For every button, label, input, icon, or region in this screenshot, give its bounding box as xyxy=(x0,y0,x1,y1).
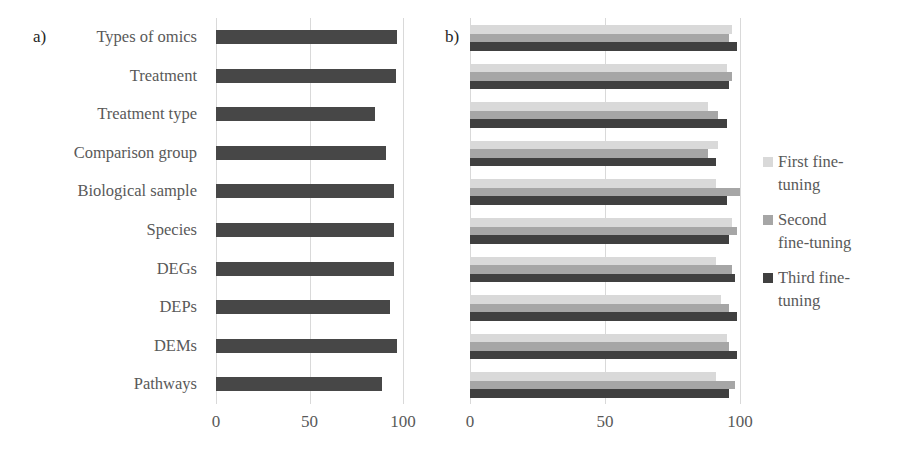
bar-2 xyxy=(470,304,729,313)
x-tick-label: 100 xyxy=(390,412,416,432)
bar-2 xyxy=(470,149,708,158)
category-label: DEPs xyxy=(159,297,197,317)
bar-1 xyxy=(470,295,721,304)
gridline xyxy=(403,18,404,404)
bar xyxy=(216,69,396,83)
legend-item-third: Third fine- tuning xyxy=(760,266,899,312)
bar-1 xyxy=(470,334,727,343)
bar-1 xyxy=(470,141,718,150)
bar xyxy=(216,146,386,160)
category-label: Treatment type xyxy=(97,104,197,124)
bar-1 xyxy=(470,25,732,34)
bar-3 xyxy=(470,158,716,167)
panel-a-category-labels: Types of omicsTreatmentTreatment typeCom… xyxy=(0,0,197,400)
bar xyxy=(216,339,397,353)
panel-b-plot xyxy=(470,18,740,404)
bar-3 xyxy=(470,274,735,283)
panel-b-label: b) xyxy=(445,27,459,47)
bar xyxy=(216,107,375,121)
bar-3 xyxy=(470,351,737,360)
x-tick-label: 50 xyxy=(301,412,318,432)
bar-2 xyxy=(470,227,737,236)
category-label: DEMs xyxy=(154,336,197,356)
category-label: Types of omics xyxy=(96,27,197,47)
bar-3 xyxy=(470,42,737,51)
bar-3 xyxy=(470,81,729,90)
x-tick-label: 0 xyxy=(212,412,221,432)
bar-1 xyxy=(470,372,716,381)
legend-item-second: Second fine-tuning xyxy=(760,208,899,254)
bar-2 xyxy=(470,111,718,120)
x-tick-label: 100 xyxy=(727,412,753,432)
bar-1 xyxy=(470,179,716,188)
x-tick-label: 0 xyxy=(466,412,475,432)
bar xyxy=(216,300,390,314)
bar-3 xyxy=(470,312,737,321)
bar-1 xyxy=(470,218,732,227)
bar-2 xyxy=(470,342,729,351)
bar-2 xyxy=(470,265,732,274)
category-label: Treatment xyxy=(130,66,197,86)
category-label: Species xyxy=(147,220,197,240)
bar xyxy=(216,377,382,391)
legend-item-first: First fine- tuning xyxy=(760,150,899,196)
category-label: Pathways xyxy=(134,374,197,394)
bar-1 xyxy=(470,102,708,111)
bar-1 xyxy=(470,64,727,73)
legend-swatch-second xyxy=(763,215,773,225)
category-label: Comparison group xyxy=(74,143,197,163)
bar-3 xyxy=(470,196,727,205)
bar-2 xyxy=(470,381,735,390)
bar xyxy=(216,184,394,198)
bar-3 xyxy=(470,119,727,128)
bar-3 xyxy=(470,389,729,398)
category-label: Biological sample xyxy=(77,181,197,201)
bar-2 xyxy=(470,188,740,197)
panel-a-plot xyxy=(216,18,403,404)
bar-1 xyxy=(470,257,716,266)
x-tick-label: 50 xyxy=(597,412,614,432)
bar-3 xyxy=(470,235,729,244)
bar-2 xyxy=(470,72,732,81)
bar xyxy=(216,262,394,276)
bar xyxy=(216,30,397,44)
legend: First fine- tuning Second fine-tuning Th… xyxy=(760,150,899,324)
bar-2 xyxy=(470,34,729,43)
legend-swatch-first xyxy=(763,157,773,167)
bar xyxy=(216,223,394,237)
category-label: DEGs xyxy=(157,259,197,279)
gridline xyxy=(740,18,741,404)
legend-swatch-third xyxy=(763,273,773,283)
